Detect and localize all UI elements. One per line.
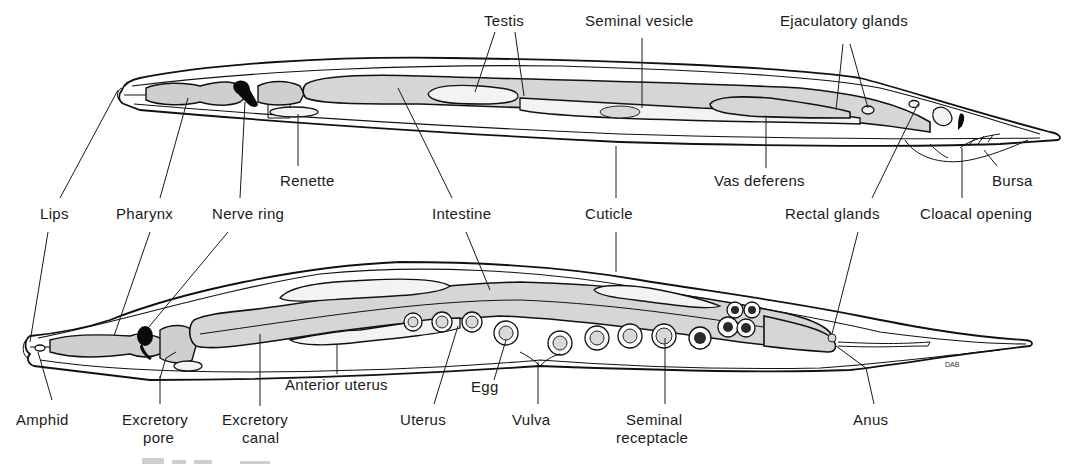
label-seminal-vesicle: Seminal vesicle [585, 12, 694, 29]
label-vas-deferens: Vas deferens [714, 172, 805, 189]
male-seminal-vesicle [600, 106, 640, 118]
male-testis [428, 85, 518, 104]
label-rectal-glands: Rectal glands [785, 205, 880, 222]
nematode-anatomy-diagram: DAB Te [0, 0, 1075, 464]
label-testis: Testis [484, 12, 524, 29]
label-nerve-ring: Nerve ring [212, 205, 284, 222]
label-cloacal-opening: Cloacal opening [920, 205, 1032, 222]
label-intestine: Intestine [432, 205, 491, 222]
cropped-caption [142, 458, 270, 464]
label-anterior-uterus: Anterior uterus [285, 376, 388, 393]
label-excretory-canal: Excretory [222, 411, 288, 428]
label-pharynx: Pharynx [116, 205, 173, 222]
label-lips: Lips [40, 205, 69, 222]
label-anus: Anus [853, 411, 888, 428]
label-excretory-pore-line2: pore [143, 429, 174, 446]
label-bursa: Bursa [992, 172, 1033, 189]
label-egg: Egg [471, 378, 499, 395]
female-worm: DAB [23, 262, 1032, 380]
male-worm [118, 58, 1060, 162]
label-excretory-pore: Excretory [122, 411, 188, 428]
label-excretory-canal-line2: canal [242, 429, 279, 446]
label-cuticle: Cuticle [585, 205, 633, 222]
label-uterus: Uterus [400, 411, 446, 428]
label-seminal-receptacle: Seminal [626, 411, 682, 428]
male-renette [270, 107, 318, 117]
female-amphid [35, 345, 45, 351]
label-renette: Renette [280, 172, 335, 189]
label-amphid: Amphid [16, 411, 69, 428]
artist-signature: DAB [945, 361, 960, 368]
label-seminal-receptacle-line2: receptacle [616, 429, 688, 446]
female-rectal-gland [828, 334, 836, 342]
female-nerve-ring [137, 326, 153, 346]
label-ejaculatory-glands: Ejaculatory glands [780, 12, 908, 29]
label-vulva: Vulva [512, 411, 551, 428]
